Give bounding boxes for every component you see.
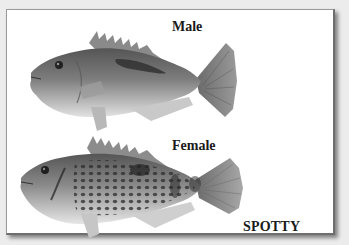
male-fish-illustration	[21, 21, 243, 133]
male-label: Male	[172, 19, 202, 35]
species-card: Male Female SPOTTY	[6, 9, 335, 235]
species-name-label: SPOTTY	[243, 219, 300, 235]
female-label: Female	[172, 138, 216, 154]
